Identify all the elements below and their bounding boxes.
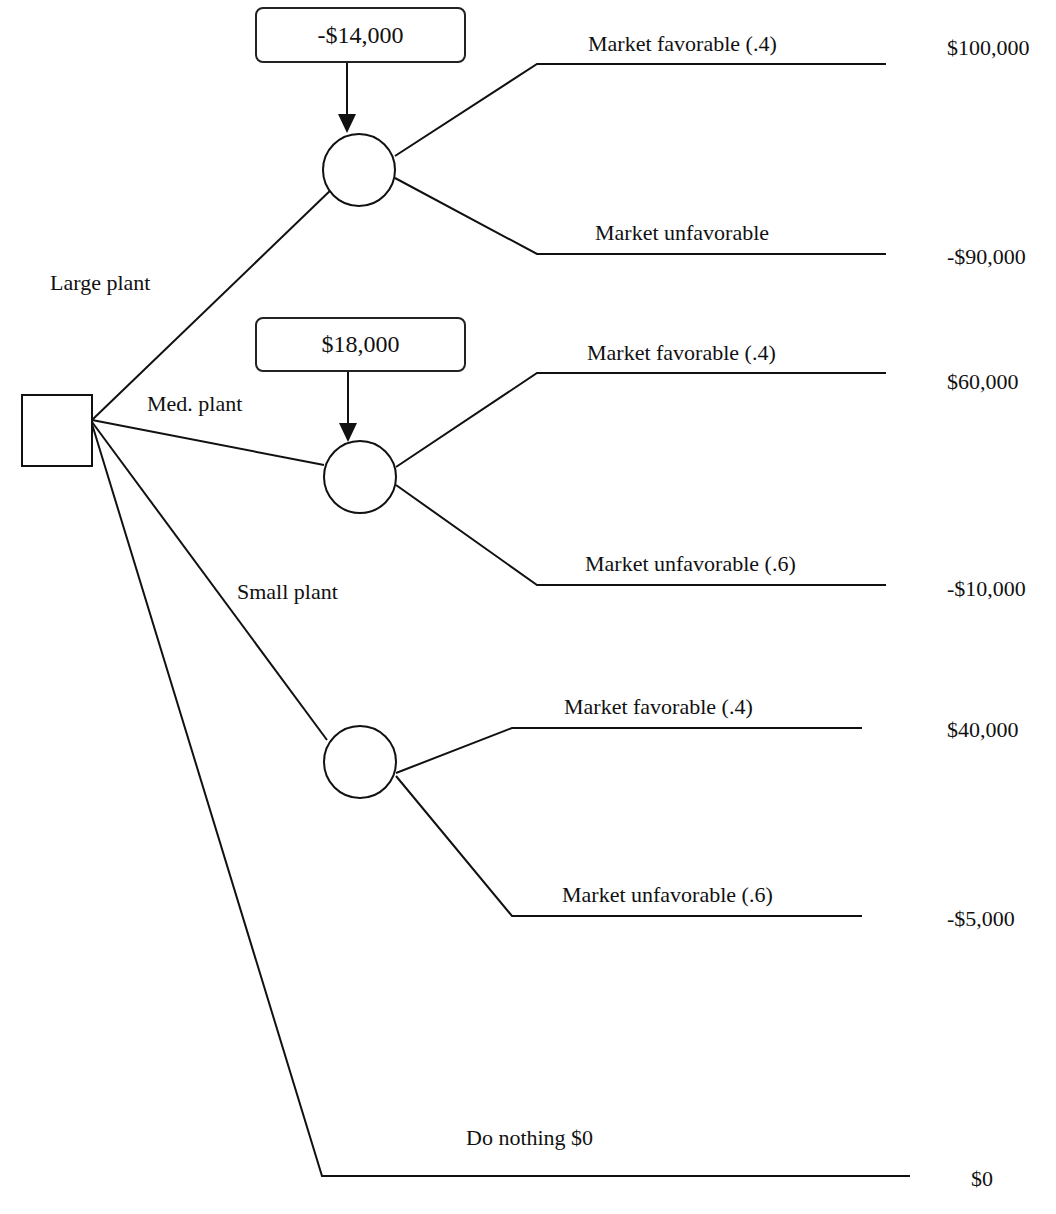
- outcome-small-favorable-line: [396, 728, 862, 773]
- outcome-med-favorable: Market favorable (.4): [587, 342, 776, 364]
- payoff-med-favorable: $60,000: [947, 371, 1019, 393]
- outcome-small-unfavorable: Market unfavorable (.6): [562, 884, 773, 906]
- outcome-large-unfavorable: Market unfavorable: [595, 222, 769, 244]
- label-large-plant: Large plant: [50, 272, 150, 294]
- payoff-small-unfavorable: -$5,000: [947, 908, 1015, 930]
- label-small-plant: Small plant: [237, 581, 338, 603]
- payoff-small-favorable: $40,000: [947, 719, 1019, 741]
- payoff-large-favorable: $100,000: [947, 37, 1030, 59]
- payoff-large-unfavorable: -$90,000: [947, 246, 1026, 268]
- cost-box-med: $18,000: [255, 317, 466, 372]
- label-do-nothing: Do nothing $0: [466, 1127, 593, 1149]
- label-med-plant: Med. plant: [147, 393, 242, 415]
- chance-node-med: [324, 441, 396, 513]
- decision-node-square: [22, 395, 92, 466]
- arrow-head-med-icon: [339, 423, 357, 442]
- cost-med: $18,000: [322, 331, 400, 358]
- branch-large-plant: [92, 186, 335, 420]
- cost-large: -$14,000: [318, 22, 404, 49]
- cost-box-large: -$14,000: [255, 7, 466, 63]
- outcome-med-unfavorable: Market unfavorable (.6): [585, 553, 796, 575]
- decision-tree-canvas: [0, 0, 1056, 1214]
- outcome-large-favorable-line: [395, 64, 886, 156]
- payoff-do-nothing: $0: [971, 1168, 993, 1190]
- outcome-small-favorable: Market favorable (.4): [564, 696, 753, 718]
- branch-do-nothing: [92, 424, 910, 1176]
- branch-med-plant: [92, 420, 324, 465]
- chance-node-large: [323, 134, 395, 206]
- payoff-med-unfavorable: -$10,000: [947, 578, 1026, 600]
- outcome-med-favorable-line: [396, 373, 886, 467]
- arrow-head-large-icon: [338, 114, 356, 133]
- chance-node-small: [324, 726, 396, 798]
- outcome-large-favorable: Market favorable (.4): [588, 33, 777, 55]
